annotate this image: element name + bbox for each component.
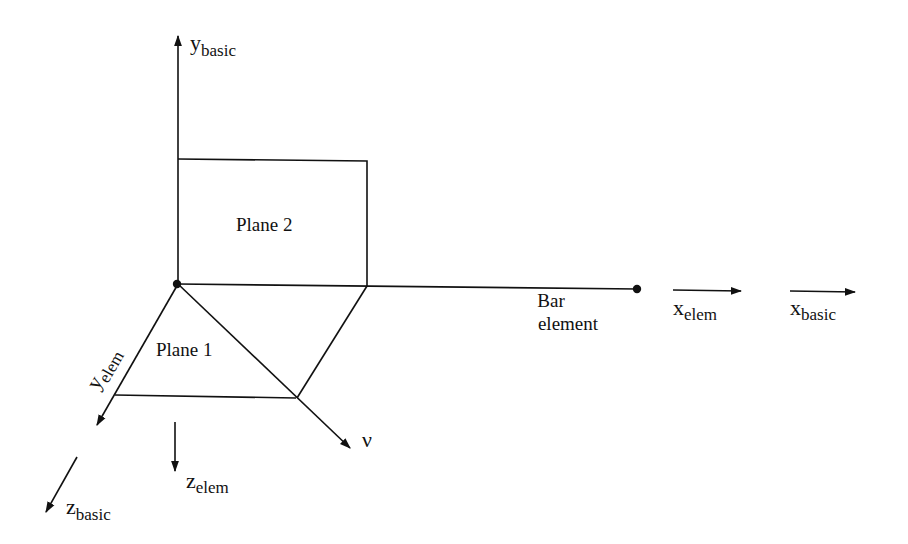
- y-elem-label: yelem: [81, 343, 128, 396]
- bar-end-node: [633, 285, 641, 293]
- coordinate-diagram: ybasic Plane 2 Bar element xelem xbasic …: [0, 0, 908, 544]
- plane-1-label: Plane 1: [156, 339, 212, 360]
- x-elem-label: xelem: [673, 295, 717, 324]
- plane-edge-right: [297, 286, 367, 398]
- y-basic-label: ybasic: [190, 30, 236, 60]
- bar-label-line2: element: [538, 313, 599, 334]
- plane-2-label: Plane 2: [236, 214, 292, 235]
- bar-label-line1: Bar: [537, 290, 565, 311]
- z-basic-label: zbasic: [66, 494, 111, 524]
- x-basic-arrow: [790, 291, 855, 292]
- nu-axis-arrow: [178, 284, 350, 448]
- bar-element-line: [178, 284, 637, 289]
- x-elem-arrow: [673, 290, 741, 291]
- z-elem-label: zelem: [186, 468, 229, 497]
- nu-label: ν: [362, 427, 372, 452]
- plane-1-bottom-edge: [115, 395, 296, 398]
- x-basic-label: xbasic: [790, 295, 836, 324]
